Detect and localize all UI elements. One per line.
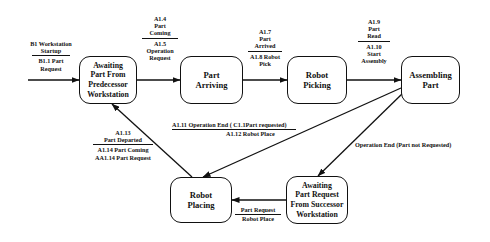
- arrow-assembling-to-awaiting-successor: [318, 92, 404, 176]
- event-text: Operation End (Part not Requested): [355, 141, 451, 148]
- event-action-divider: [32, 55, 70, 56]
- state-part-arriving: Part Arriving: [180, 56, 243, 104]
- action-text: Pick: [259, 60, 271, 67]
- event-text: Part: [368, 25, 380, 32]
- event-text: Coming: [150, 29, 171, 36]
- action-text: Request: [40, 65, 61, 72]
- state-label-line: Arriving: [196, 80, 228, 91]
- event-text: A1.13: [115, 129, 130, 136]
- event-text: A1.7: [259, 28, 271, 35]
- transition-label-part-departed: A1.13 Part Departed A1.14 Part Coming AA…: [88, 129, 158, 161]
- state-assembling-part: Assembling Part: [401, 56, 460, 104]
- action-text: Request: [149, 54, 170, 61]
- transition-label-part-read: A1.9 Part Read A1.10 Start Assembly: [352, 18, 396, 64]
- event-text: Arrived: [255, 42, 276, 49]
- state-label-line: Part Request: [291, 190, 344, 200]
- state-label-line: Workstation: [291, 210, 344, 220]
- event-text: A1.4: [154, 15, 166, 22]
- event-action-divider: [93, 144, 153, 145]
- state-label-line: Awaiting: [87, 61, 129, 71]
- action-text: Operation: [146, 47, 173, 54]
- event-text: Startup: [41, 47, 61, 54]
- action-text: A1.5: [154, 40, 166, 47]
- event-action-divider: [358, 41, 390, 42]
- state-label-line: Workstation: [87, 90, 129, 100]
- action-text: A1.12 Robot Place: [172, 130, 302, 137]
- event-text: A1.11 Operation End ( C1.1Part requested…: [172, 121, 302, 128]
- event-text: Part: [154, 22, 166, 29]
- action-text: AA1.14 Part Request: [95, 154, 151, 161]
- state-label-line: Part From: [87, 70, 129, 80]
- action-text: Assembly: [361, 57, 386, 64]
- state-label-line: Awaiting: [291, 181, 344, 191]
- state-label-line: From Successor: [291, 200, 344, 210]
- action-text: Start: [367, 50, 380, 57]
- state-awaiting-part-from-predecessor: Awaiting Part From Predecessor Workstati…: [79, 56, 137, 104]
- state-robot-placing: Robot Placing: [170, 177, 232, 223]
- state-label-line: Robot: [187, 190, 214, 201]
- state-robot-picking: Robot Picking: [287, 56, 347, 104]
- state-label-line: Predecessor: [87, 80, 129, 90]
- transition-label-part-arrived: A1.7 Part Arrived A1.8 Robot Pick: [244, 28, 286, 67]
- event-text: Read: [367, 32, 381, 39]
- state-label-line: Assembling: [409, 70, 452, 81]
- event-text: Part Request: [235, 206, 281, 213]
- state-awaiting-part-request-from-successor: Awaiting Part Request From Successor Wor…: [286, 176, 348, 224]
- state-label-line: Placing: [187, 200, 214, 211]
- action-text: B1.1 Part: [38, 57, 63, 64]
- event-action-divider: [248, 51, 282, 52]
- event-text: Part Departed: [104, 136, 142, 143]
- action-text: A1.8 Robot: [250, 53, 280, 60]
- event-action-divider: [142, 38, 178, 39]
- transition-label-part-coming: A1.4 Part Coming A1.5 Operation Request: [142, 15, 178, 61]
- event-text: A1.9: [368, 18, 380, 25]
- transition-label-operation-end-part-not-requested: Operation End (Part not Requested): [355, 141, 451, 148]
- transition-label-startup: B1 Workstation Startup B1.1 Part Request: [26, 40, 76, 72]
- state-label-line: Part: [196, 70, 228, 81]
- transition-label-part-request: Part Request Robot Place: [235, 206, 281, 222]
- state-label-line: Robot: [303, 70, 331, 81]
- event-text: B1 Workstation: [30, 40, 72, 47]
- state-label-line: Part: [409, 80, 452, 91]
- action-text: A1.10: [366, 43, 381, 50]
- state-label-line: Picking: [303, 80, 331, 91]
- action-text: A1.14 Part Coming: [97, 146, 148, 153]
- event-text: Part: [259, 35, 271, 42]
- transition-label-operation-end-part-requested: A1.11 Operation End ( C1.1Part requested…: [172, 121, 302, 137]
- action-text: Robot Place: [235, 215, 281, 222]
